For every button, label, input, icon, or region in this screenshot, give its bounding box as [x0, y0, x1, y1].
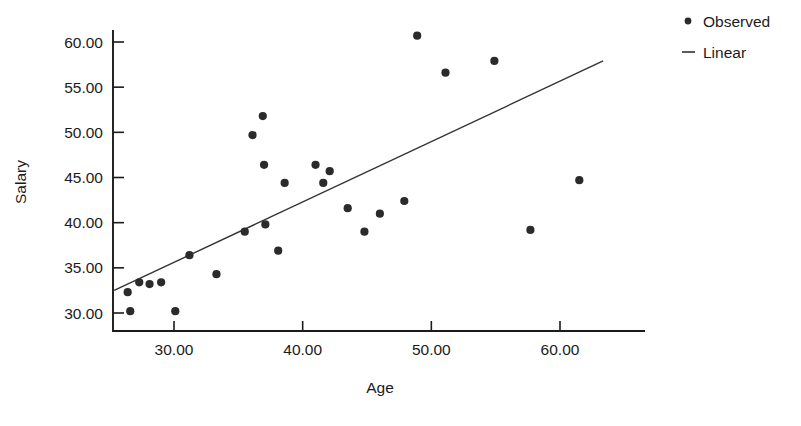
data-point — [260, 161, 268, 169]
data-point — [326, 167, 334, 175]
data-point — [135, 278, 143, 286]
x-tick-label: 40.00 — [283, 341, 322, 358]
data-point — [212, 270, 220, 278]
y-tick-label: 50.00 — [64, 124, 103, 141]
y-axis-title: Salary — [12, 160, 29, 204]
y-tick-label: 60.00 — [64, 34, 103, 51]
x-tick-label: 60.00 — [541, 341, 580, 358]
data-point — [145, 280, 153, 288]
legend-label-observed: Observed — [703, 13, 770, 30]
x-axis-title: Age — [366, 379, 394, 396]
axis-frame — [113, 30, 645, 331]
data-point — [274, 247, 282, 255]
legend-label-linear: Linear — [703, 44, 746, 61]
data-point — [124, 288, 132, 296]
data-point — [126, 307, 134, 315]
data-point — [413, 32, 421, 40]
data-point — [281, 179, 289, 187]
data-point — [441, 69, 449, 77]
y-tick-label: 45.00 — [64, 169, 103, 186]
data-point — [261, 220, 269, 228]
y-axis-tick-labels: 30.0035.0040.0045.0050.0055.0060.00 — [64, 34, 103, 322]
data-point — [185, 251, 193, 259]
data-point — [259, 112, 267, 120]
data-point — [360, 228, 368, 236]
x-tick-label: 30.00 — [155, 341, 194, 358]
data-point — [575, 176, 583, 184]
data-point — [157, 278, 165, 286]
y-tick-label: 30.00 — [64, 305, 103, 322]
data-point — [319, 179, 327, 187]
data-point — [344, 204, 352, 212]
data-point — [400, 197, 408, 205]
y-tick-label: 55.00 — [64, 79, 103, 96]
chart-canvas: 30.0035.0040.0045.0050.0055.0060.00 30.0… — [0, 0, 801, 426]
chart-legend: Observed Linear — [682, 13, 770, 61]
x-axis-tick-labels: 30.0040.0050.0060.00 — [155, 341, 580, 358]
y-tick-label: 35.00 — [64, 259, 103, 276]
y-tick-label: 40.00 — [64, 214, 103, 231]
scatter-plot-figure: 30.0035.0040.0045.0050.0055.0060.00 30.0… — [0, 0, 801, 426]
observed-data-points — [124, 32, 584, 316]
data-point — [376, 210, 384, 218]
data-point — [248, 131, 256, 139]
data-point — [490, 57, 498, 65]
data-point — [311, 161, 319, 169]
data-point — [526, 226, 534, 234]
data-point — [241, 228, 249, 236]
data-point — [171, 307, 179, 315]
legend-marker-observed-icon — [685, 18, 692, 25]
x-tick-label: 50.00 — [412, 341, 451, 358]
